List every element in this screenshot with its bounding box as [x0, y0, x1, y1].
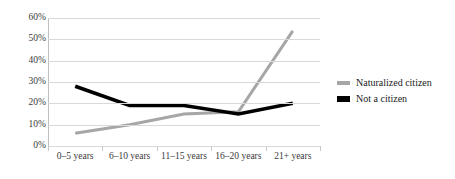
series-line: [75, 86, 293, 114]
legend-label: Not a citizen: [356, 94, 407, 104]
y-tick-label: 40%: [2, 56, 46, 66]
gridline: [48, 125, 320, 126]
y-tick-label: 10%: [2, 120, 46, 130]
x-tick: [266, 146, 267, 151]
y-tick-label: 50%: [2, 35, 46, 45]
y-tick-label: 60%: [2, 13, 46, 23]
legend-swatch-icon: [337, 81, 350, 85]
gridline: [48, 39, 320, 40]
gridline: [48, 103, 320, 104]
legend-swatch-icon: [337, 96, 350, 102]
x-tick: [320, 146, 321, 151]
legend-item-not-a-citizen: Not a citizen: [337, 94, 452, 104]
x-tick-label: 11–15 years: [161, 152, 207, 162]
line-chart: 0%10%20%30%40%50%60% 0–5 years6–10 years…: [0, 0, 455, 179]
y-tick-label: 0%: [2, 141, 46, 151]
x-tick-label: 6–10 years: [109, 152, 150, 162]
legend-label: Naturalized citizen: [356, 78, 432, 88]
gridline: [48, 61, 320, 62]
gridline: [48, 18, 320, 19]
x-tick-label: 16–20 years: [215, 152, 261, 162]
gridline: [48, 82, 320, 83]
y-tick-label: 30%: [2, 77, 46, 87]
x-tick: [48, 146, 49, 151]
x-tick: [211, 146, 212, 151]
x-tick-label: 0–5 years: [57, 152, 94, 162]
x-tick: [157, 146, 158, 151]
x-axis-labels: 0–5 years6–10 years11–15 years16–20 year…: [40, 152, 340, 172]
y-tick-label: 20%: [2, 99, 46, 109]
x-tick: [102, 146, 103, 151]
plot-area: [48, 18, 320, 146]
chart-legend: Naturalized citizen Not a citizen: [337, 78, 452, 110]
legend-item-naturalized-citizen: Naturalized citizen: [337, 78, 452, 88]
x-tick-label: 21+ years: [274, 152, 311, 162]
x-axis-line: [48, 146, 320, 147]
